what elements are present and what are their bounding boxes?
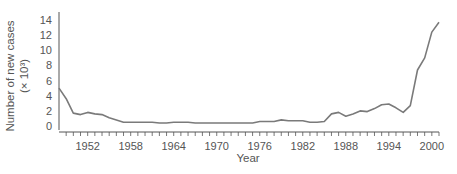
y-axis-unit: (× 10³) [18,59,30,93]
x-tick-label: 1958 [118,140,142,152]
y-tick-label: 8 [46,59,52,71]
x-tick-label: 1976 [248,140,272,152]
line-chart: 02468101214 1952195819641970197619821988… [0,0,457,174]
x-tick-label: 1964 [161,140,185,152]
data-line [59,22,439,123]
y-axis: 02468101214 [40,12,59,132]
x-tick-label: 1970 [204,140,228,152]
y-axis-title: Number of new cases [4,20,16,131]
y-tick-label: 2 [46,105,52,117]
x-tick-label: 2000 [420,140,444,152]
y-tick-label: 0 [46,120,52,132]
x-axis: 195219581964197019761982198819942000 [59,132,444,152]
y-tick-label: 4 [46,90,52,102]
y-tick-label: 14 [40,14,52,26]
x-tick-label: 1988 [334,140,358,152]
y-tick-label: 10 [40,44,52,56]
x-tick-label: 1994 [377,140,401,152]
y-tick-label: 6 [46,75,52,87]
x-tick-label: 1952 [75,140,99,152]
x-tick-label: 1982 [291,140,315,152]
chart-canvas: 02468101214 1952195819641970197619821988… [0,0,457,174]
y-tick-label: 12 [40,29,52,41]
x-axis-title: Year [236,152,259,164]
